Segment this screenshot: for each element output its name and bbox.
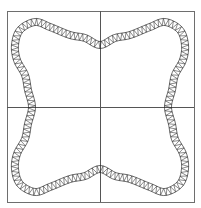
- curve-figure: [0, 0, 201, 208]
